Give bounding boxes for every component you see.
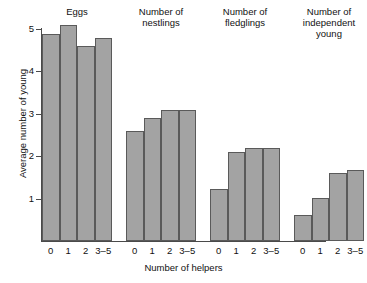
y-tick-4 [36,71,41,72]
group-title-line: Number of [123,6,199,17]
y-tick-3 [36,114,41,115]
group-title-2: Number offledglings [207,6,283,28]
bar-g2-1 [228,152,246,241]
bar-g1-1 [144,118,162,241]
x-tick-label-g2-3: 3–5 [261,245,283,256]
bar-g0-1 [60,25,78,241]
bar-g1-3–5 [179,110,197,241]
bar-g2-3–5 [263,148,281,241]
y-tick-label-1: 1 [18,194,34,204]
group-title-line: fledglings [207,17,283,28]
y-tick-label-3: 3 [18,109,34,119]
bar-g3-1 [312,198,330,241]
x-axis-title: Number of helpers [41,262,326,273]
y-tick-5 [36,29,41,30]
y-tick-label-2: 2 [18,151,34,161]
group-title-line: independent [291,17,367,28]
bar-g0-3–5 [95,38,113,241]
bar-g2-0 [210,189,228,241]
y-tick-label-4: 4 [18,66,34,76]
y-tick-2 [36,156,41,157]
group-title-line: nestlings [123,17,199,28]
group-title-0: Eggs [39,6,115,17]
group-title-1: Number ofnestlings [123,6,199,28]
y-tick-1 [36,199,41,200]
group-title-line: young [291,28,367,39]
group-title-line: Number of [207,6,283,17]
x-tick-label-g3-3: 3–5 [345,245,367,256]
bar-g3-2 [329,173,347,241]
bar-g0-2 [77,46,95,241]
group-title-line: Eggs [39,6,115,17]
group-title-3: Number ofindependentyoung [291,6,367,39]
bar-g2-2 [245,148,263,241]
x-tick-label-g1-3: 3–5 [177,245,199,256]
bar-g0-0 [42,34,60,241]
bar-g1-0 [126,131,144,241]
x-tick-label-g0-3: 3–5 [93,245,115,256]
x-axis-line [41,241,326,242]
group-title-line: Number of [291,6,367,17]
bar-g3-3–5 [347,170,365,241]
bar-g3-0 [294,215,312,241]
bar-g1-2 [161,110,179,241]
y-tick-label-5: 5 [18,24,34,34]
